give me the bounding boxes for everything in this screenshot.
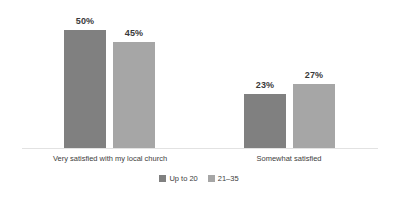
bar-up-to-20-somewhat-satisfied[interactable] [244, 94, 286, 148]
axis-baseline [22, 148, 378, 149]
category-label-somewhat-satisfied: Somewhat satisfied [229, 154, 349, 163]
legend-item-21-35[interactable]: 21–35 [208, 174, 239, 183]
bar-label-21-35-somewhat-satisfied: 27% [287, 70, 341, 80]
bar-up-to-20-very-satisfied[interactable] [64, 30, 106, 148]
bar-label-up-to-20-somewhat-satisfied: 23% [238, 80, 292, 90]
legend-swatch-icon [159, 175, 166, 182]
chart-legend: Up to 20 21–35 [0, 174, 398, 183]
legend-item-up-to-20[interactable]: Up to 20 [159, 174, 197, 183]
bar-label-21-35-very-satisfied: 45% [107, 28, 161, 38]
bar-21-35-very-satisfied[interactable] [113, 42, 155, 148]
bar-label-up-to-20-very-satisfied: 50% [58, 16, 112, 26]
legend-label-21-35: 21–35 [218, 174, 239, 183]
legend-swatch-icon [208, 175, 215, 182]
legend-label-up-to-20: Up to 20 [169, 174, 197, 183]
bar-21-35-somewhat-satisfied[interactable] [293, 84, 335, 148]
bar-chart: 50% 45% 23% 27% Very satisfied with my l… [0, 0, 398, 197]
plot-area: 50% 45% 23% 27% [0, 0, 398, 152]
category-label-very-satisfied: Very satisfied with my local church [20, 154, 200, 163]
